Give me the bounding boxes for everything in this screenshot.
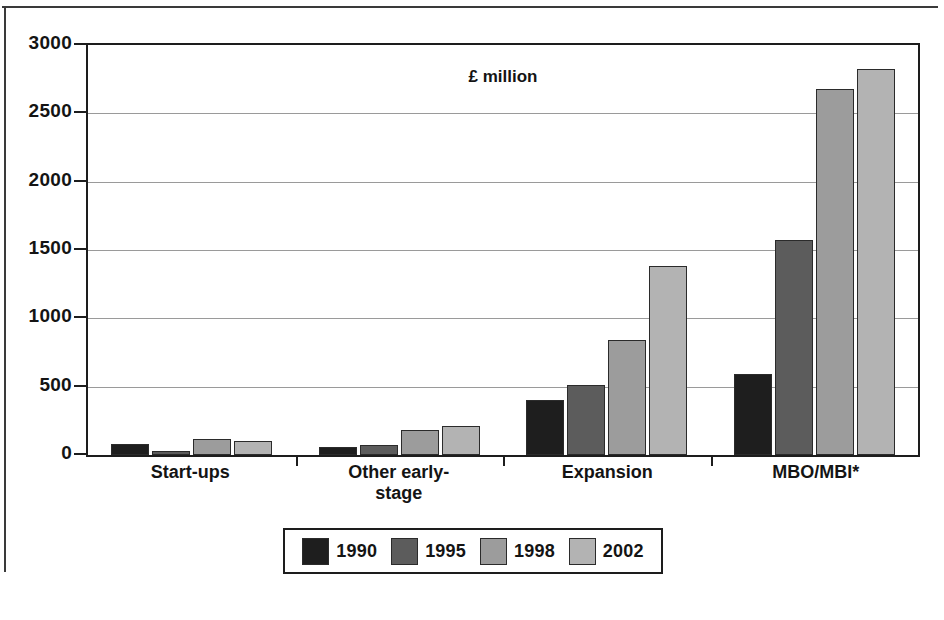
legend-swatch	[391, 538, 418, 565]
y-axis-tick-label: 2000	[10, 170, 72, 189]
category-label-line: MBO/MBI*	[712, 462, 921, 483]
legend-item[interactable]: 1998	[480, 538, 555, 565]
bar	[401, 430, 439, 455]
category-label-line: Other early-	[295, 462, 504, 483]
y-axis-tick-label: 1500	[10, 238, 72, 257]
x-axis-category-label: Other early-stage	[295, 462, 504, 503]
x-axis-category-label: Expansion	[503, 462, 712, 503]
y-axis-tick-label: 1000	[10, 306, 72, 325]
legend-item[interactable]: 2002	[569, 538, 644, 565]
bar	[234, 441, 272, 455]
legend-label: 2002	[603, 541, 644, 562]
category-label-line: Expansion	[503, 462, 712, 483]
x-axis-category-labels: Start-upsOther early-stageExpansionMBO/M…	[86, 462, 920, 503]
bar-group	[296, 45, 504, 455]
category-label-line: stage	[295, 483, 504, 504]
bar	[816, 89, 854, 455]
bar-group	[503, 45, 711, 455]
legend: 1990199519982002	[283, 528, 663, 574]
y-axis-tick-label: 3000	[10, 33, 72, 52]
bar	[567, 385, 605, 455]
bar	[111, 444, 149, 455]
bar	[775, 240, 813, 455]
category-label-line: Start-ups	[86, 462, 295, 483]
chart-figure: 300025002000150010005000 £ million Start…	[0, 0, 944, 620]
legend-label: 1995	[425, 541, 466, 562]
bar	[152, 451, 190, 455]
legend-label: 1998	[514, 541, 555, 562]
figure-frame-top-rule	[2, 6, 938, 8]
bar	[442, 426, 480, 455]
x-axis-category-label: Start-ups	[86, 462, 295, 503]
legend-label: 1990	[336, 541, 377, 562]
bar	[526, 400, 564, 455]
legend-swatch	[480, 538, 507, 565]
bar	[608, 340, 646, 455]
bar	[193, 439, 231, 455]
bar	[734, 374, 772, 455]
y-axis-tick-label: 500	[10, 375, 72, 394]
x-axis-category-label: MBO/MBI*	[712, 462, 921, 503]
y-axis-tick-label: 0	[10, 443, 72, 462]
legend-swatch	[569, 538, 596, 565]
plot-area: £ million	[86, 43, 920, 457]
legend-item[interactable]: 1995	[391, 538, 466, 565]
figure-frame-left-rule	[4, 6, 6, 572]
legend-item[interactable]: 1990	[302, 538, 377, 565]
bar	[857, 69, 895, 455]
bar-group	[711, 45, 919, 455]
bar-group	[88, 45, 296, 455]
legend-swatch	[302, 538, 329, 565]
bar	[319, 447, 357, 455]
bar	[360, 445, 398, 455]
bar-series-container	[88, 45, 918, 455]
y-axis-tick-label: 2500	[10, 101, 72, 120]
bar	[649, 266, 687, 455]
